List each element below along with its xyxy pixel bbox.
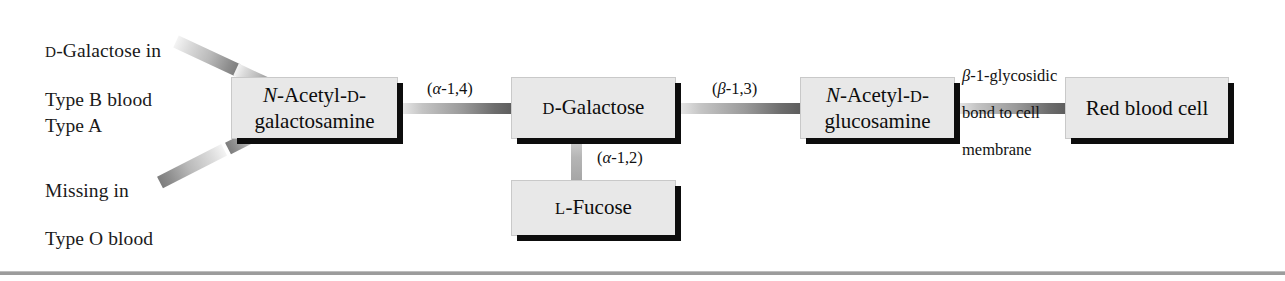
node-label: Red blood cell (1080, 96, 1214, 121)
small-caps-d: D (347, 87, 359, 106)
node-label: N-Acetyl-D- glucosamine (818, 83, 936, 134)
annotation-line: Type O blood (45, 227, 153, 251)
annotation-text: -Galactose in (56, 40, 161, 61)
pointer-bar-type-o (157, 144, 227, 188)
annotation-line: Type A (45, 114, 102, 138)
bond-text: -1,3) (726, 79, 758, 98)
bottom-divider (0, 271, 1285, 275)
node-d-galactose[interactable]: D-Galactose (511, 77, 676, 139)
italic-n: N (826, 83, 840, 107)
greek-beta: β (718, 79, 726, 98)
node-text: glucosamine (824, 109, 930, 133)
blood-group-antigen-diagram: D-Galactose in Type B blood Type A Missi… (0, 0, 1285, 281)
connector-galnac-to-gal (396, 103, 516, 114)
greek-alpha: α (433, 79, 442, 98)
membrane-line: membrane (962, 141, 1057, 160)
bond-text: -1,2) (611, 148, 643, 167)
bond-label-beta-1-glycosidic-membrane: β-1-glycosidic bond to cell membrane (962, 48, 1057, 178)
node-text: - (922, 83, 929, 107)
membrane-line: bond to cell (962, 104, 1057, 123)
bond-label-alpha-1-2: (α-1,2) (597, 148, 643, 167)
node-l-fucose[interactable]: L-Fucose (511, 180, 676, 236)
bond-text: -1,4) (441, 79, 473, 98)
greek-beta: β (962, 66, 970, 85)
node-text: - (359, 83, 366, 107)
italic-n: N (263, 83, 277, 107)
annotation-line: D-Galactose in (45, 39, 161, 64)
membrane-text: -1-glycosidic (970, 66, 1057, 85)
node-text: -Galactose (555, 95, 645, 119)
greek-alpha: α (603, 148, 612, 167)
small-caps-l: L (555, 199, 565, 218)
node-red-blood-cell[interactable]: Red blood cell (1065, 77, 1229, 139)
bond-label-beta-1-3: (β-1,3) (712, 79, 757, 98)
small-caps-d: D (543, 99, 555, 118)
annotation-line: Missing in (45, 179, 153, 203)
annotation-type-a: Type A (45, 90, 102, 162)
small-caps-d: D (910, 87, 922, 106)
node-label: L-Fucose (549, 195, 638, 221)
small-caps-d: D (45, 43, 56, 60)
node-text: -Acetyl- (840, 83, 910, 107)
node-n-acetyl-d-glucosamine[interactable]: N-Acetyl-D- glucosamine (800, 77, 955, 139)
node-text: galactosamine (254, 109, 374, 133)
node-text: -Acetyl- (277, 83, 347, 107)
node-label: D-Galactose (537, 95, 651, 121)
node-label: N-Acetyl-D- galactosamine (248, 83, 380, 134)
annotation-missing-type-o: Missing in Type O blood (45, 155, 153, 275)
membrane-line: β-1-glycosidic (962, 67, 1057, 86)
node-text: -Fucose (565, 195, 632, 219)
bond-label-alpha-1-4: (α-1,4) (427, 79, 473, 98)
pointer-bar-type-b (173, 36, 240, 77)
node-n-acetyl-d-galactosamine[interactable]: N-Acetyl-D- galactosamine (231, 77, 398, 139)
connector-gal-to-glcnac (672, 103, 805, 114)
